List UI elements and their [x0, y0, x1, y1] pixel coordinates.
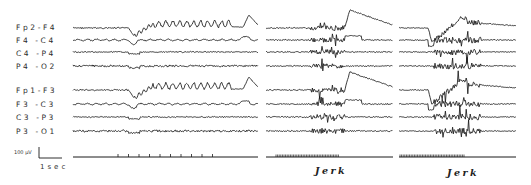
eeg-trace-fp1-f3-panel-3 — [399, 71, 516, 104]
channel-label-f4-c4: F4 -C4 — [16, 37, 56, 45]
channel-label-fp2-f4: Fp2-F4 — [16, 24, 57, 32]
eeg-trace-p4-o2-panel-2 — [266, 59, 392, 71]
jerk-label-2: Jerk — [447, 167, 479, 178]
eeg-trace-fp2-f4-panel-1 — [73, 15, 258, 36]
channel-label-fp1-f3: Fp1-F3 — [16, 87, 57, 95]
eeg-trace-p3-o1-panel-3 — [399, 120, 516, 138]
eeg-trace-f4-c4-panel-3 — [399, 31, 516, 46]
channel-label-f3-c3: F3 -C3 — [16, 101, 56, 109]
eeg-trace-f4-c4-panel-2 — [266, 34, 392, 46]
eeg-trace-c4-p4-panel-1 — [73, 51, 258, 54]
eeg-trace-f3-c3-panel-3 — [399, 98, 516, 111]
eeg-trace-p3-o1-panel-2 — [266, 128, 392, 133]
eeg-traces — [0, 0, 531, 185]
channel-label-p3-o1: P3 -O1 — [16, 128, 57, 136]
eeg-trace-fp2-f4-panel-2 — [266, 10, 392, 31]
eeg-trace-c3-p3-panel-1 — [73, 116, 258, 119]
eeg-trace-f3-c3-panel-2 — [266, 97, 392, 107]
eeg-trace-fp1-f3-panel-2 — [266, 72, 392, 99]
jerk-label-1: Jerk — [315, 165, 347, 176]
scale-bar — [39, 147, 62, 158]
eeg-trace-f3-c3-panel-1 — [73, 101, 258, 109]
eeg-trace-p4-o2-panel-3 — [399, 58, 516, 70]
eeg-trace-p3-o1-panel-1 — [73, 130, 258, 134]
channel-label-c4-p4: C4 -P4 — [16, 50, 56, 58]
eeg-trace-f4-c4-panel-1 — [73, 36, 258, 45]
jerk-event-marker-2 — [400, 155, 464, 158]
scale-voltage-label: 100 µV — [14, 149, 32, 155]
eeg-trace-p4-o2-panel-1 — [73, 65, 258, 69]
channel-label-p4-o2: P4 -O2 — [16, 63, 57, 71]
eeg-trace-c3-p3-panel-3 — [399, 105, 516, 120]
eeg-trace-c3-p3-panel-2 — [266, 113, 392, 122]
eeg-trace-c4-p4-panel-2 — [266, 46, 392, 57]
eeg-trace-c4-p4-panel-3 — [399, 49, 516, 63]
scale-time-label: 1sec — [40, 163, 68, 171]
channel-label-c3-p3: C3 -P3 — [16, 114, 56, 122]
eeg-trace-fp2-f4-panel-3 — [399, 17, 516, 42]
eeg-trace-fp1-f3-panel-1 — [73, 77, 258, 98]
